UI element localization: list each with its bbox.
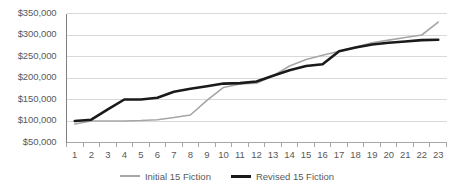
x-axis-tick-label: 1	[67, 149, 84, 160]
x-axis-ticks	[67, 143, 447, 147]
legend-label-initial: Initial 15 Fiction	[145, 171, 211, 182]
x-axis-tick-label: 11	[232, 149, 249, 160]
chart-legend: Initial 15 Fiction Revised 15 Fiction	[0, 166, 454, 186]
legend-item-revised[interactable]: Revised 15 Fiction	[231, 171, 334, 182]
series-line-initial	[75, 22, 438, 124]
x-axis-tick-label: 3	[100, 149, 117, 160]
x-axis-tick-label: 7	[166, 149, 183, 160]
x-axis-tick-label: 9	[199, 149, 216, 160]
x-axis-tick-label: 22	[413, 149, 430, 160]
legend-line-initial-icon	[120, 175, 140, 177]
x-axis-tick-label: 2	[83, 149, 100, 160]
x-axis-tick-label: 5	[133, 149, 150, 160]
x-axis-tick-label: 23	[430, 149, 447, 160]
plot-area	[0, 0, 454, 188]
x-axis-tick-label: 10	[215, 149, 232, 160]
x-axis-tick-label: 8	[182, 149, 199, 160]
y-axis-tick-label: $250,000	[0, 50, 57, 61]
x-axis-tick-label: 17	[331, 149, 348, 160]
x-axis-tick-label: 14	[281, 149, 298, 160]
y-axis-tick-label: $100,000	[0, 114, 57, 125]
gridlines	[67, 14, 447, 143]
x-axis-tick-label: 18	[347, 149, 364, 160]
x-axis-tick-label: 12	[248, 149, 265, 160]
x-axis-tick-label: 4	[116, 149, 133, 160]
line-chart: $350,000$300,000$250,000$200,000$150,000…	[0, 0, 454, 188]
legend-item-initial[interactable]: Initial 15 Fiction	[120, 171, 211, 182]
y-axis-tick-label: $200,000	[0, 71, 57, 82]
data-series	[75, 22, 438, 124]
x-axis-tick-label: 21	[397, 149, 414, 160]
x-axis-tick-label: 16	[314, 149, 331, 160]
x-axis-tick-label: 13	[265, 149, 282, 160]
y-axis-tick-label: $150,000	[0, 93, 57, 104]
x-axis-tick-label: 20	[380, 149, 397, 160]
legend-label-revised: Revised 15 Fiction	[256, 171, 334, 182]
y-axis-tick-label: $50,000	[0, 136, 57, 147]
x-axis-tick-label: 19	[364, 149, 381, 160]
y-axis-tick-label: $300,000	[0, 28, 57, 39]
x-axis-tick-label: 6	[149, 149, 166, 160]
legend-line-revised-icon	[231, 175, 251, 178]
series-line-revised	[75, 40, 438, 121]
x-axis-tick-label: 15	[298, 149, 315, 160]
y-axis-tick-label: $350,000	[0, 7, 57, 18]
